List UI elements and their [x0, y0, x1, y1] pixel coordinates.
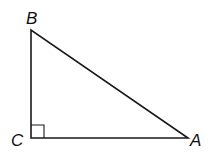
vertex-label-a: A: [189, 131, 201, 150]
vertex-label-b: B: [26, 9, 37, 28]
right-angle-marker: [31, 125, 44, 138]
vertex-label-c: C: [11, 131, 24, 150]
triangle-abc: [31, 30, 188, 138]
triangle-diagram: B C A: [0, 0, 214, 160]
